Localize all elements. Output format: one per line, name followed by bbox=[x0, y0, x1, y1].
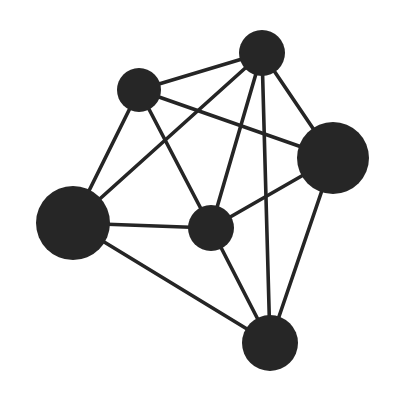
node-left bbox=[36, 186, 110, 260]
edges-layer bbox=[73, 53, 333, 343]
node-bottom bbox=[242, 315, 298, 371]
node-center bbox=[188, 205, 234, 251]
network-diagram bbox=[0, 0, 400, 402]
edge-top-left bbox=[73, 53, 262, 223]
node-upper-left bbox=[117, 68, 161, 112]
node-top bbox=[239, 30, 285, 76]
node-right bbox=[297, 122, 369, 194]
